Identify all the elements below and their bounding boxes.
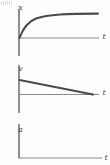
velocity-time-axis-label: t [102,88,106,97]
acceleration-panel: a t [18,124,108,162]
position-curve [20,14,99,38]
acceleration-time-axis-label: t [104,153,108,162]
kinematics-figure: x t v t a t [0,0,110,165]
acceleration-axis-label: a [18,125,23,134]
velocity-curve [20,80,94,95]
position-time-axis-label: t [102,32,106,41]
position-axis-label: x [18,3,23,12]
position-panel: x t [18,3,106,57]
velocity-panel: v t [18,64,106,114]
velocity-axis-label: v [18,64,23,73]
